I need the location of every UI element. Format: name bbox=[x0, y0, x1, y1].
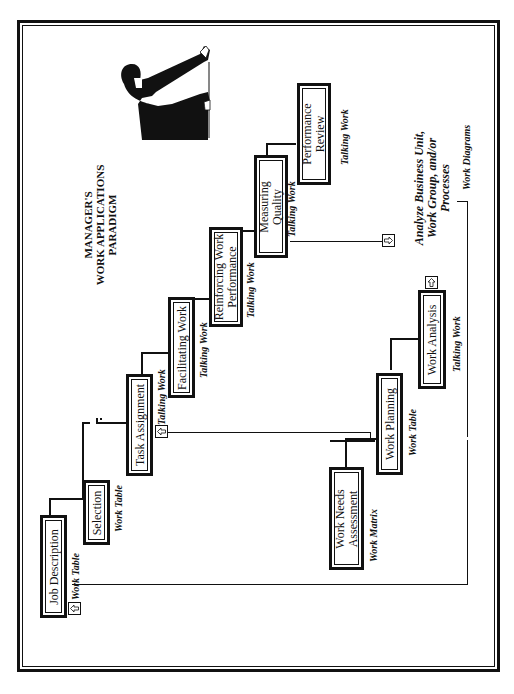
node-measuring-quality[interactable]: Measuring Quality bbox=[254, 155, 288, 258]
connector bbox=[100, 418, 102, 420]
node-label-line: Review bbox=[314, 103, 327, 164]
caption-performance-review: Talking Work bbox=[339, 109, 350, 165]
node-label: Facilitating Work bbox=[175, 306, 188, 390]
arrow-left-icon bbox=[157, 427, 166, 436]
caption-job-description: Work Table bbox=[70, 553, 81, 600]
node-label-line: Work Needs bbox=[334, 489, 347, 548]
arrow-right-icon bbox=[384, 236, 393, 245]
node-task-assignment[interactable]: Task Assignment bbox=[126, 374, 153, 476]
connector bbox=[96, 422, 126, 424]
connector bbox=[390, 338, 420, 340]
feedback-line-task-assignment bbox=[370, 432, 371, 440]
analyze-business-unit-note: Analyze Business Unit, Work Group, and/o… bbox=[413, 131, 452, 245]
connector bbox=[345, 440, 347, 470]
node-performance-review[interactable]: Performance Review bbox=[297, 83, 331, 185]
node-label-line: Performance bbox=[226, 234, 239, 320]
title-line-1: MANAGER'S bbox=[82, 165, 94, 286]
connector bbox=[330, 440, 375, 442]
manager-pointing-illustration bbox=[112, 44, 212, 140]
connector bbox=[82, 422, 90, 424]
node-label: Work Planning bbox=[383, 388, 396, 460]
arrow-box-work-analysis bbox=[425, 276, 438, 289]
arrow-box-job-description bbox=[68, 602, 81, 615]
node-label: Performance Review bbox=[301, 103, 327, 164]
node-label: Task Assignment bbox=[133, 384, 146, 466]
arrow-box-measuring-quality bbox=[382, 234, 395, 247]
feedback-line-job-description bbox=[467, 440, 468, 585]
connector bbox=[141, 352, 143, 376]
diagram-title: MANAGER'S WORK APPLICATIONS PARADIGM bbox=[82, 165, 118, 286]
caption-selection: Work Table bbox=[113, 485, 124, 532]
feedback-line-work-diagrams bbox=[457, 201, 468, 202]
connector bbox=[49, 500, 51, 516]
caption-work-planning: Work Table bbox=[407, 409, 418, 456]
feedback-line-work-diagrams bbox=[467, 201, 468, 437]
feedback-line-job-description bbox=[72, 584, 468, 585]
arrow-left-icon bbox=[70, 604, 79, 613]
node-label-line: Assessment bbox=[347, 489, 360, 548]
node-job-description[interactable]: Job Description bbox=[40, 515, 67, 618]
caption-reinforcing-work-performance: Talking Work bbox=[245, 262, 256, 318]
node-label: Selection bbox=[90, 490, 103, 535]
node-selection[interactable]: Selection bbox=[83, 480, 110, 545]
arrow-box-task-assignment bbox=[155, 425, 168, 438]
node-label: Work Analysis bbox=[426, 304, 439, 375]
node-label: Job Description bbox=[47, 529, 60, 605]
node-work-needs-assessment[interactable]: Work Needs Assessment bbox=[329, 467, 364, 570]
caption-work-diagrams: Work Diagrams bbox=[461, 125, 472, 190]
title-line-3: PARADIGM bbox=[106, 165, 118, 286]
node-work-planning[interactable]: Work Planning bbox=[376, 373, 403, 475]
caption-measuring-quality: Talking Work bbox=[286, 181, 297, 237]
caption-work-analysis: Talking Work bbox=[451, 316, 462, 372]
feedback-line-task-assignment bbox=[168, 432, 371, 433]
node-label-line: Quality bbox=[271, 181, 284, 232]
title-line-2: WORK APPLICATIONS bbox=[94, 165, 106, 286]
feedback-line-measuring-quality bbox=[290, 241, 386, 242]
connector bbox=[96, 422, 98, 423]
connector bbox=[266, 143, 296, 145]
node-facilitating-work[interactable]: Facilitating Work bbox=[168, 297, 195, 398]
caption-task-assignment: Talking Work bbox=[156, 369, 167, 425]
arrow-up-icon bbox=[427, 278, 436, 287]
node-reinforcing-work-performance[interactable]: Reinforcing Work Performance bbox=[209, 227, 243, 327]
node-label: Measuring Quality bbox=[258, 181, 284, 232]
note-line-3: Processes bbox=[439, 131, 452, 245]
caption-facilitating-work: Talking Work bbox=[198, 322, 209, 378]
node-label: Reinforcing Work Performance bbox=[213, 234, 239, 320]
node-work-analysis[interactable]: Work Analysis bbox=[418, 290, 446, 389]
connector bbox=[390, 338, 392, 370]
caption-work-needs-assessment: Work Matrix bbox=[368, 509, 379, 562]
node-label: Work Needs Assessment bbox=[334, 489, 360, 548]
connector bbox=[49, 498, 84, 500]
